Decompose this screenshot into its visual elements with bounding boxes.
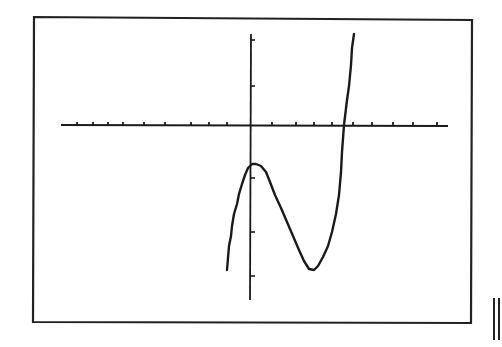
screen-frame [33, 17, 472, 323]
calculator-graph-screen [0, 0, 502, 347]
function-curve [227, 34, 354, 270]
double-bar-marker [494, 298, 499, 340]
graph-canvas [0, 0, 502, 347]
x-axis [61, 125, 448, 126]
